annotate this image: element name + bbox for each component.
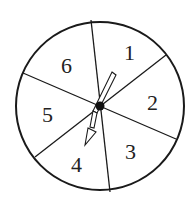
section-label-3: 3 [125,139,136,164]
section-label-4: 4 [71,152,82,177]
pivot-dot [96,102,105,111]
section-label-1: 1 [124,40,135,65]
section-label-2: 2 [147,90,158,115]
section-label-5: 5 [42,102,53,127]
section-label-6: 6 [61,53,72,78]
spinner-diagram: 1 2 3 4 5 6 [0,0,195,199]
